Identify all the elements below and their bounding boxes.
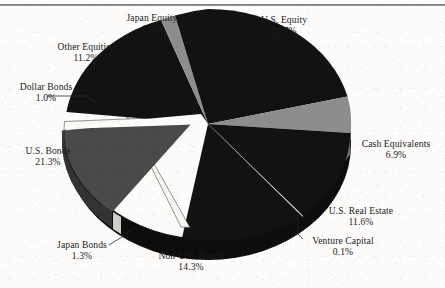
label-dollar-bonds-value: 1.0% — [0, 92, 92, 103]
label-japan-equity-value: 1.6% — [108, 23, 196, 34]
label-us-bonds: U.S. Bonds 21.3% — [8, 145, 88, 168]
label-japan-bonds-value: 1.3% — [44, 250, 120, 261]
label-us-bonds-value: 21.3% — [8, 156, 88, 167]
label-japan-bonds: Japan Bonds 1.3% — [44, 239, 120, 262]
label-non-us-bonds-value: 14.3% — [141, 261, 241, 272]
label-venture-capital-value: 0.1% — [295, 246, 391, 257]
label-us-equity: U.S. Equity 30.7% — [238, 14, 330, 37]
label-dollar-bonds: Dollar Bonds 1.0% — [0, 81, 92, 104]
label-cash-equivalents-name: Cash Equivalents — [362, 138, 430, 149]
label-us-real-estate-name: U.S. Real Estate — [329, 205, 393, 216]
label-cash-equivalents-value: 6.9% — [347, 149, 445, 160]
label-other-equities: Other Equities 11.2% — [38, 41, 134, 64]
label-us-equity-value: 30.7% — [238, 25, 330, 36]
label-us-real-estate: U.S. Real Estate 11.6% — [312, 205, 410, 228]
label-japan-equity: Japan Equity 1.6% — [108, 12, 196, 35]
label-japan-equity-name: Japan Equity — [126, 12, 177, 23]
label-cash-equivalents: Cash Equivalents 6.9% — [347, 138, 445, 161]
label-japan-bonds-name: Japan Bonds — [57, 239, 107, 250]
label-us-bonds-name: U.S. Bonds — [26, 145, 71, 156]
label-dollar-bonds-name: Dollar Bonds — [20, 81, 73, 92]
chart-page: Japan Equity 1.6% U.S. Equity 30.7% Othe… — [0, 0, 445, 288]
label-venture-capital-name: Venture Capital — [312, 235, 373, 246]
label-us-equity-name: U.S. Equity — [261, 14, 307, 25]
label-non-us-bonds-name: Non-U.S. Bonds — [158, 250, 223, 261]
label-non-us-bonds: Non-U.S. Bonds 14.3% — [141, 250, 241, 273]
label-venture-capital: Venture Capital 0.1% — [295, 235, 391, 258]
label-other-equities-name: Other Equities — [57, 41, 114, 52]
label-other-equities-value: 11.2% — [38, 52, 134, 63]
label-us-real-estate-value: 11.6% — [312, 216, 410, 227]
